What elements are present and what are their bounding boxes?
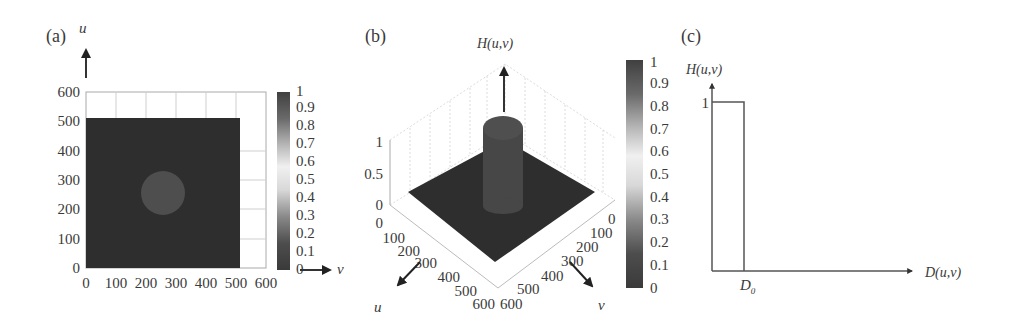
svg-text:300: 300 xyxy=(58,172,81,188)
svg-text:600: 600 xyxy=(500,296,523,312)
svg-text:0.5: 0.5 xyxy=(364,166,383,182)
y-ticks-a: 0 100 200 300 400 500 600 xyxy=(58,84,81,276)
panel-a: (a) u 0 100 200 3 xyxy=(46,20,344,291)
passband-circle xyxy=(141,171,185,215)
svg-text:500: 500 xyxy=(58,113,81,129)
svg-text:0.2: 0.2 xyxy=(296,225,315,241)
x-ticks-a: 0 100 200 300 400 500 600 xyxy=(82,275,277,291)
u-axis-arrow-b-icon xyxy=(398,262,420,285)
svg-text:600: 600 xyxy=(58,84,81,100)
panel-b-label: (b) xyxy=(365,26,386,47)
svg-text:1: 1 xyxy=(650,54,658,70)
y-tick-1: 1 xyxy=(702,95,710,111)
v-axis-label: v xyxy=(337,261,344,277)
svg-text:400: 400 xyxy=(541,268,564,284)
svg-text:300: 300 xyxy=(165,275,188,291)
passband-cylinder xyxy=(483,116,523,214)
svg-text:0.4: 0.4 xyxy=(296,189,315,205)
svg-text:0.3: 0.3 xyxy=(650,211,669,227)
svg-text:600: 600 xyxy=(255,275,278,291)
svg-text:200: 200 xyxy=(135,275,158,291)
svg-text:0: 0 xyxy=(376,197,384,213)
z-ticks-b: 0 0.5 1 xyxy=(364,134,383,213)
u-axis-label: u xyxy=(79,20,87,36)
svg-text:0.1: 0.1 xyxy=(296,243,315,259)
svg-text:0.5: 0.5 xyxy=(296,171,315,187)
svg-text:0: 0 xyxy=(650,280,658,296)
svg-text:0.5: 0.5 xyxy=(650,166,669,182)
svg-text:300: 300 xyxy=(561,253,584,269)
svg-text:0: 0 xyxy=(376,215,384,231)
colorbar-a xyxy=(277,92,290,270)
svg-text:0.1: 0.1 xyxy=(650,257,669,273)
panel-c: (c) H(u,v) 1 D0 D(u,v) xyxy=(681,26,961,296)
svg-text:0: 0 xyxy=(73,260,81,276)
svg-text:1: 1 xyxy=(376,134,384,150)
colorbar-ticks-a: 0 0.1 0.2 0.3 0.4 0.5 0.6 0.7 0.8 0.9 1 xyxy=(296,83,315,277)
svg-text:600: 600 xyxy=(473,296,496,312)
h-axis-label-c: H(u,v) xyxy=(685,62,722,78)
svg-text:0.2: 0.2 xyxy=(650,234,669,250)
svg-text:0.3: 0.3 xyxy=(296,207,315,223)
svg-text:0.4: 0.4 xyxy=(650,189,669,205)
svg-text:500: 500 xyxy=(517,281,540,297)
svg-text:0.7: 0.7 xyxy=(296,135,315,151)
svg-text:0.7: 0.7 xyxy=(650,121,669,137)
svg-text:0.9: 0.9 xyxy=(296,99,315,115)
panel-c-label: (c) xyxy=(681,26,701,47)
filter-profile-line xyxy=(712,102,744,271)
svg-text:500: 500 xyxy=(225,275,248,291)
svg-text:0.6: 0.6 xyxy=(650,143,669,159)
svg-text:200: 200 xyxy=(58,201,81,217)
svg-text:100: 100 xyxy=(58,231,81,247)
svg-text:0.9: 0.9 xyxy=(650,75,669,91)
x-tick-d0: D0 xyxy=(739,277,756,296)
h-axis-label-b: H(u,v) xyxy=(476,36,513,52)
svg-text:0.8: 0.8 xyxy=(296,117,315,133)
u-axis-label-b: u xyxy=(374,299,382,315)
svg-text:400: 400 xyxy=(58,143,81,159)
d-axis-label: D(u,v) xyxy=(924,265,961,281)
svg-text:0.8: 0.8 xyxy=(650,98,669,114)
v-axis-label-b: v xyxy=(598,297,605,313)
colorbar-ticks-b: 0 0.1 0.2 0.3 0.4 0.5 0.6 0.7 0.8 0.9 1 xyxy=(650,54,669,296)
svg-text:100: 100 xyxy=(105,275,128,291)
panel-b: (b) H(u,v) xyxy=(364,26,669,315)
colorbar-b xyxy=(626,60,643,288)
heatmap-plot-area xyxy=(86,92,266,268)
svg-text:400: 400 xyxy=(195,275,218,291)
svg-text:0.6: 0.6 xyxy=(296,153,315,169)
panel-a-label: (a) xyxy=(46,26,66,47)
svg-text:1: 1 xyxy=(296,83,304,99)
svg-text:0: 0 xyxy=(82,275,90,291)
